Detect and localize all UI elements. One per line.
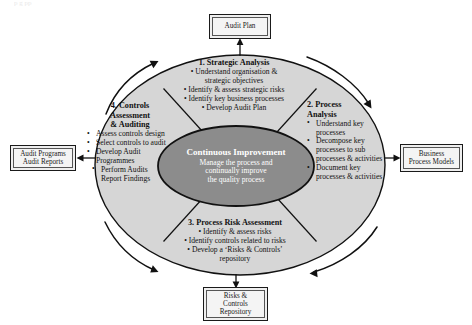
external-box-risks-controls-repository-inner: Risks & Controls Repository xyxy=(206,290,265,318)
external-box-business-process-models[interactable]: Business Process Models xyxy=(400,144,463,172)
list-item: • Document key processes & activities xyxy=(307,164,391,182)
quadrant-4-title-line1: 4. Controls xyxy=(87,101,173,111)
bullet-glyph: • xyxy=(198,227,201,236)
quadrant-2-title: 2. Process Analysis xyxy=(307,100,391,119)
external-box-audit-programs-reports[interactable]: Audit Programs Audit Reports xyxy=(10,145,76,171)
hub-ellipse xyxy=(158,126,314,206)
bullet-glyph: • xyxy=(184,85,187,94)
external-box-risks-line1: Risks & xyxy=(224,292,247,300)
list-item: • Decompose key processes to sub process… xyxy=(307,137,391,164)
external-box-risks-line3: Repository xyxy=(220,308,252,316)
external-box-risks-controls-repository[interactable]: Risks & Controls Repository xyxy=(203,287,268,321)
bullet-glyph: • xyxy=(87,148,90,157)
bullet-glyph: • xyxy=(307,137,310,146)
bullet-text: repository xyxy=(220,254,251,263)
bullet-text: Identify & assess risks xyxy=(203,227,272,236)
bullet-glyph: • xyxy=(184,94,187,103)
external-box-audit-plan-line1: Audit Plan xyxy=(225,22,256,30)
bullet-glyph: • xyxy=(191,67,194,76)
external-box-bpm-line2: Process Models xyxy=(409,158,454,166)
quadrant-4-title: 4. Controls Assessment & Auditing xyxy=(87,101,173,130)
external-box-audit-programs-reports-inner: Audit Programs Audit Reports xyxy=(13,148,73,168)
list-item: • Understand key processes xyxy=(307,120,391,138)
quadrant-controls-assessment-auditing[interactable]: 4. Controls Assessment & Auditing • Asse… xyxy=(87,101,173,184)
bullet-text: Identify controls related to risks xyxy=(189,236,286,245)
bullet-text: strategic objectives xyxy=(205,76,263,85)
list-item: Report Findings xyxy=(87,175,173,184)
quadrant-3-bullets: • Identify & assess risks • Identify con… xyxy=(140,228,330,264)
bullet-text: Understand organisation & xyxy=(195,67,277,76)
bullet-glyph: • xyxy=(307,119,310,128)
bullet-glyph: • xyxy=(202,103,205,112)
quadrant-4-bullets: • Assess controls design • Select contro… xyxy=(87,130,173,183)
external-box-bpm-line1: Business xyxy=(419,150,445,158)
bullet-text: Identify & assess strategic risks xyxy=(188,85,284,94)
bullet-text: Identify key business processes xyxy=(189,94,285,103)
bullet-text: Develop a ‘Risks & Controls’ xyxy=(192,245,283,254)
bullet-glyph: • xyxy=(184,236,187,245)
quadrant-2-title-line1: 2. Process xyxy=(307,100,391,110)
quadrant-2-bullets: • Understand key processes • Decompose k… xyxy=(307,120,391,182)
list-item: • Develop Audit Programmes xyxy=(87,148,173,166)
clipped-header-text: p g pp xyxy=(14,0,244,6)
bullet-text: Decompose key processes to sub processes… xyxy=(316,137,391,164)
external-box-audit-plan-inner: Audit Plan xyxy=(212,17,268,36)
bullet-glyph: • xyxy=(307,164,310,173)
bullet-text: Report Findings xyxy=(101,175,173,184)
bullet-text: Develop Audit Programmes xyxy=(96,148,173,166)
bullet-text: Develop Audit Plan xyxy=(206,103,266,112)
bullet-text: Document key processes & activities xyxy=(316,164,391,182)
quadrant-4-title-line2: Assessment xyxy=(87,111,173,121)
bullet-glyph: • xyxy=(92,165,95,174)
quadrant-2-title-line2: Analysis xyxy=(307,110,391,120)
external-box-audit-programs-line2: Audit Reports xyxy=(23,158,64,166)
diagram-canvas: p g pp xyxy=(0,0,472,325)
external-box-business-process-models-inner: Business Process Models xyxy=(403,147,460,169)
bullet-text: Understand key processes xyxy=(316,120,391,138)
list-item: repository xyxy=(140,255,330,264)
bullet-glyph: • xyxy=(187,245,190,254)
quadrant-process-risk-assessment[interactable]: 3. Process Risk Assessment • Identify & … xyxy=(140,218,330,264)
external-box-risks-line2: Controls xyxy=(223,300,248,308)
external-box-audit-plan[interactable]: Audit Plan xyxy=(209,14,271,39)
external-box-audit-programs-line1: Audit Programs xyxy=(20,150,66,158)
quadrant-process-analysis[interactable]: 2. Process Analysis • Understand key pro… xyxy=(307,100,391,182)
